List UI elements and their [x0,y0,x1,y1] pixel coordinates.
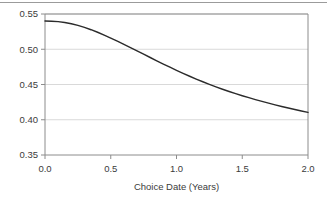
x-tick-label: 1.5 [236,163,249,174]
y-axis-ticks [41,14,45,155]
line-chart: 0.35 0.40 0.45 0.50 0.55 0.0 0.5 1.0 1.5… [0,0,327,200]
y-tick-label: 0.35 [20,149,39,160]
y-tick-label: 0.50 [20,44,39,55]
data-series-line [45,21,308,112]
figure-container: 0.35 0.40 0.45 0.50 0.55 0.0 0.5 1.0 1.5… [0,0,327,200]
x-tick-label: 0.0 [38,163,51,174]
x-tick-label: 2.0 [301,163,314,174]
x-tick-label: 0.5 [104,163,117,174]
y-tick-labels: 0.35 0.40 0.45 0.50 0.55 [20,8,39,160]
y-tick-label: 0.45 [20,79,39,90]
x-tick-labels: 0.0 0.5 1.0 1.5 2.0 [38,163,314,174]
x-axis-ticks [45,155,308,159]
x-axis-title: Choice Date (Years) [134,181,219,192]
y-tick-label: 0.40 [20,114,39,125]
y-tick-label: 0.55 [20,8,39,19]
x-tick-label: 1.0 [170,163,183,174]
